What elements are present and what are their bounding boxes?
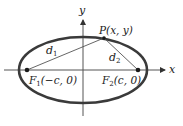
y-axis-label: y bbox=[78, 4, 86, 17]
ellipse-diagram: x y P(x, y) d1 d2 F1(−c, 0) F2(c, 0) bbox=[0, 0, 183, 126]
focus-1-label: F1(−c, 0) bbox=[28, 74, 77, 88]
distance-2-label: d2 bbox=[109, 51, 121, 65]
focus-2-label: F2(c, 0) bbox=[101, 74, 141, 88]
focus-1-point bbox=[25, 68, 30, 73]
segment-d1 bbox=[27, 38, 104, 70]
point-p-label: P(x, y) bbox=[98, 24, 133, 36]
distance-1-label: d1 bbox=[46, 44, 58, 58]
x-axis-label: x bbox=[169, 63, 176, 76]
focus-2-point bbox=[136, 68, 141, 73]
point-p bbox=[102, 36, 106, 40]
